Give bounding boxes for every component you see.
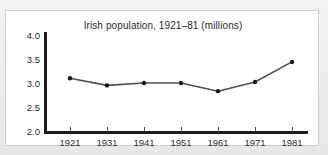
data-point (216, 89, 220, 93)
data-series-layer (6, 11, 320, 147)
data-point (253, 80, 257, 84)
chart-figure: Irish population, 1921–81 (millions) 2.0… (5, 10, 319, 146)
series-line (70, 62, 292, 91)
data-point (290, 60, 294, 64)
data-point (142, 81, 146, 85)
data-point (179, 81, 183, 85)
data-point (105, 83, 109, 87)
data-point (68, 76, 72, 80)
screenshot-root: Irish population, 1921–81 (millions) 2.0… (0, 0, 328, 155)
plot-area: 2.02.53.03.54.0 192119311941195119611971… (6, 11, 320, 147)
series-markers (68, 60, 294, 94)
